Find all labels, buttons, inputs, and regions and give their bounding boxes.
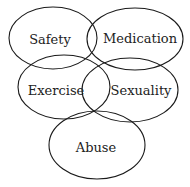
ellipse-medication: Medication bbox=[87, 8, 183, 70]
label-abuse: Abuse bbox=[75, 140, 117, 155]
ellipse-safety: Safety bbox=[9, 7, 97, 69]
label-safety: Safety bbox=[29, 32, 71, 47]
label-medication: Medication bbox=[103, 31, 178, 46]
venn-diagram: Safety Medication Exercise Sexuality Abu… bbox=[0, 0, 190, 187]
ellipse-abuse: Abuse bbox=[49, 111, 145, 179]
ellipse-sexuality: Sexuality bbox=[82, 58, 178, 122]
ellipse-exercise: Exercise bbox=[18, 55, 110, 119]
label-sexuality: Sexuality bbox=[111, 83, 173, 98]
label-exercise: Exercise bbox=[28, 83, 85, 98]
